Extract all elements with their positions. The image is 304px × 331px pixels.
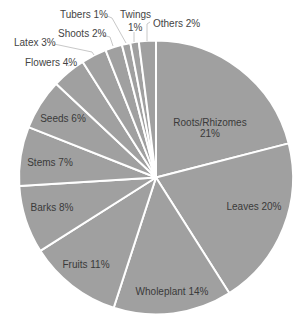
pie-slices (19, 41, 293, 315)
label-fruits: Fruits 11% (62, 259, 109, 270)
label-twings-pct: 1% (128, 22, 143, 33)
label-stems: Stems 7% (27, 157, 73, 168)
label-roots-pct: 21% (200, 128, 220, 139)
label-roots-name: Roots/Rhizomes (173, 117, 246, 128)
label-leaves: Leaves 20% (226, 201, 281, 212)
label-tubers: Tubers 1% (60, 9, 108, 20)
leader-others (147, 22, 150, 41)
label-wholeplant: Wholeplant 14% (136, 286, 209, 297)
leader-tubers (107, 16, 126, 43)
pie-chart: Roots/Rhizomes 21% Leaves 20% Wholeplant… (0, 0, 304, 331)
leader-latex (54, 44, 94, 55)
label-latex: Latex 3% (14, 37, 56, 48)
label-twings-name: Twings (120, 9, 151, 20)
label-seeds: Seeds 6% (40, 113, 86, 124)
label-shoots: Shoots 2% (58, 28, 106, 39)
label-barks: Barks 8% (31, 202, 74, 213)
label-others: Others 2% (153, 18, 200, 29)
label-flowers: Flowers 4% (25, 57, 77, 68)
